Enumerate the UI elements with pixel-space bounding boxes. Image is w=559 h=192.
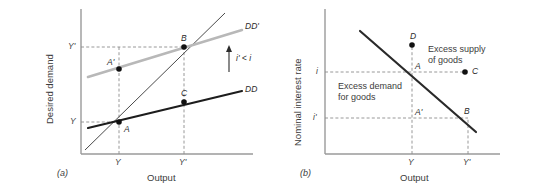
panel-a-x-tick-high: Y' bbox=[179, 157, 186, 167]
point-label-B: B bbox=[464, 106, 470, 116]
region-label-excess-demand: Excess demand for goods bbox=[338, 81, 402, 104]
panel-a-x-tick-low: Y bbox=[115, 157, 121, 167]
panel-b-x-axis-title: Output bbox=[400, 172, 429, 183]
region-label-excess-demand-line1: Excess demand bbox=[338, 81, 402, 92]
point-marker-D bbox=[409, 42, 415, 48]
point-label-A-prime: A' bbox=[107, 57, 114, 67]
curve-label-dd: DD bbox=[245, 84, 257, 94]
panel-b-label: (b) bbox=[300, 168, 311, 179]
point-label-C: C bbox=[472, 66, 478, 76]
point-label-A: A bbox=[124, 124, 130, 134]
point-label-C: C bbox=[181, 88, 187, 98]
panel-a-y-tick-high: Y' bbox=[68, 41, 75, 51]
interest-rate-shift-annotation: i' < i bbox=[236, 53, 251, 63]
panel-b-plot bbox=[280, 0, 559, 192]
panel-a: Desired demand Y' Y Y Y' Output DD' DD A… bbox=[0, 0, 280, 192]
panel-b-y-tick-i-prime: i' bbox=[313, 112, 317, 122]
point-marker-C bbox=[181, 99, 187, 105]
panel-b-x-tick-Y-prime: Y' bbox=[463, 157, 470, 167]
point-marker-C bbox=[462, 69, 468, 75]
point-label-D: D bbox=[410, 31, 416, 41]
point-label-B: B bbox=[181, 33, 187, 43]
curve-label-dd-prime: DD' bbox=[245, 21, 259, 31]
shift-arrow-head bbox=[226, 45, 232, 52]
forty-five-degree-line bbox=[85, 13, 225, 150]
panel-a-label: (a) bbox=[57, 168, 68, 179]
panel-b: Nominal interest rate i i' Y Y' Output D… bbox=[280, 0, 559, 192]
panel-a-plot bbox=[0, 0, 280, 192]
panel-a-x-axis-title: Output bbox=[147, 172, 176, 183]
panel-a-y-axis-title: Desired demand bbox=[44, 54, 55, 124]
panel-b-y-tick-i: i bbox=[316, 66, 318, 76]
dd-prime-curve bbox=[88, 30, 242, 77]
dd-curve bbox=[88, 91, 242, 128]
region-label-excess-supply-line1: Excess supply bbox=[428, 44, 486, 55]
panel-b-y-axis-title: Nominal interest rate bbox=[292, 58, 303, 146]
region-label-excess-demand-line2: for goods bbox=[338, 92, 402, 103]
point-marker-B bbox=[181, 44, 187, 50]
point-label-A: A bbox=[415, 61, 421, 71]
region-label-excess-supply: Excess supply of goods bbox=[428, 44, 486, 67]
region-label-excess-supply-line2: of goods bbox=[428, 55, 486, 66]
point-marker-A-prime bbox=[116, 66, 122, 72]
panel-b-x-tick-Y: Y bbox=[408, 157, 414, 167]
point-label-A-prime: A' bbox=[415, 107, 422, 117]
economics-figure: Desired demand Y' Y Y Y' Output DD' DD A… bbox=[0, 0, 559, 192]
panel-a-y-tick-low: Y bbox=[70, 116, 76, 126]
point-marker-A bbox=[116, 119, 122, 125]
